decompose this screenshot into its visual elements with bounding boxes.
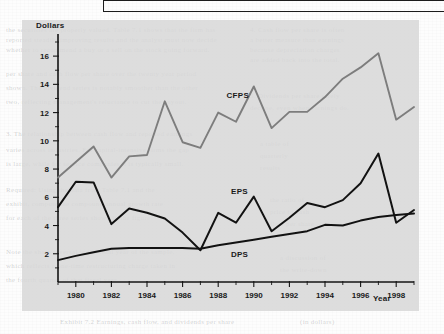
series-line-cfps: [58, 53, 414, 177]
y-tick-label: 4: [45, 222, 50, 231]
x-tick-label: 1994: [316, 291, 334, 300]
x-tick-label: 1992: [281, 291, 299, 300]
x-tick-label: 1986: [174, 291, 192, 300]
page-rule-box: [103, 0, 444, 12]
y-tick-label: 14: [40, 80, 49, 89]
series-label-eps: EPS: [231, 187, 248, 196]
y-tick-label: 2: [45, 250, 50, 259]
x-tick-label: 1980: [67, 291, 85, 300]
data-series-group: [58, 53, 414, 260]
axis-ticks: 2468101214161980198219841986198819901992…: [40, 42, 414, 300]
series-label-dps: DPS: [231, 250, 249, 259]
page-text-line: (in dollars): [300, 318, 335, 326]
page-text-line: Exhibit 7.2 Earnings, cash flow, and div…: [60, 318, 234, 326]
series-label-cfps: CFPS: [227, 91, 250, 100]
y-tick-label: 8: [45, 165, 50, 174]
x-tick-label: 1982: [103, 291, 121, 300]
scanned-page-background: the securities are properly valued. Tabl…: [0, 0, 444, 334]
x-tick-label: 1998: [387, 291, 405, 300]
line-chart: 2468101214161980198219841986198819901992…: [22, 20, 422, 312]
x-tick-label: 1990: [245, 291, 263, 300]
chart-figure: Dollars Year 246810121416198019821984198…: [22, 20, 422, 312]
axis-lines: [58, 34, 414, 282]
x-tick-label: 1988: [209, 291, 227, 300]
series-line-eps: [58, 154, 414, 251]
y-tick-label: 16: [40, 52, 49, 61]
y-tick-label: 6: [45, 193, 50, 202]
x-tick-label: 1996: [352, 291, 370, 300]
y-tick-label: 12: [40, 109, 49, 118]
x-tick-label: 1984: [138, 291, 156, 300]
y-tick-label: 10: [40, 137, 49, 146]
